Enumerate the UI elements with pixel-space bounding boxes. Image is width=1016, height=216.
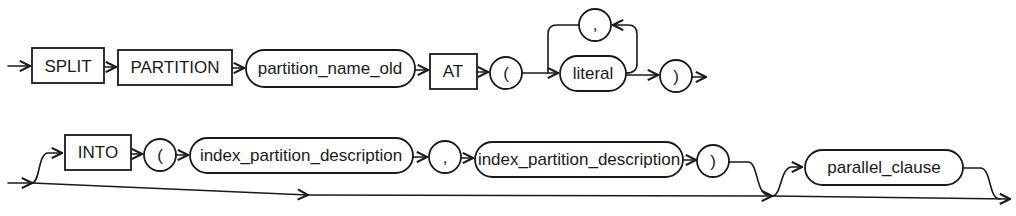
keyword-into-label: INTO [78,143,118,162]
keyword-partition-label: PARTITION [130,58,219,77]
nonterminal-index-partition-description-2: index_partition_description [475,142,683,177]
close-paren-label: ) [673,67,679,86]
rejoin-parallel [963,168,1000,199]
close-paren-label: ) [710,152,716,171]
row-1: SPLIT PARTITION partition_name_old AT ( [8,9,706,92]
open-paren-label: ( [503,64,509,83]
close-paren-2: ) [697,145,729,177]
loop-separator: , [579,9,611,41]
nonterminal-partition-name-old: partition_name_old [246,50,415,87]
nonterminal-parallel-clause: parallel_clause [805,150,963,185]
row-2: INTO ( index_partition_description , ind… [8,135,1010,199]
keyword-split: SPLIT [32,48,104,83]
parallel-clause-label: parallel_clause [827,158,940,177]
partition-name-old-label: partition_name_old [258,59,403,78]
nonterminal-literal: literal [560,56,626,91]
bypass-line [32,183,308,195]
rejoin-into [729,162,768,195]
nonterminal-index-partition-description-1: index_partition_description [190,138,413,173]
index-partition-description-label: index_partition_description [200,146,402,165]
bypass-line [772,196,1010,199]
loop-separator-label: , [593,15,598,34]
keyword-into: INTO [65,135,131,170]
keyword-split-label: SPLIT [44,57,91,76]
close-paren-1: ) [660,60,692,92]
open-paren-2: ( [144,139,176,171]
syntax-diagram: SPLIT PARTITION partition_name_old AT ( [0,0,1016,216]
branch-into [32,153,62,183]
branch-parallel [772,167,802,196]
open-paren-1: ( [490,57,522,89]
keyword-partition: PARTITION [118,50,232,85]
open-paren-label: ( [157,146,163,165]
separator-label: , [443,148,448,167]
keyword-at-label: AT [443,62,463,81]
literal-label: literal [573,64,614,83]
bypass-line [308,195,772,196]
index-partition-description-label: index_partition_description [478,150,680,169]
keyword-at: AT [430,54,477,89]
separator-comma: , [429,141,461,173]
